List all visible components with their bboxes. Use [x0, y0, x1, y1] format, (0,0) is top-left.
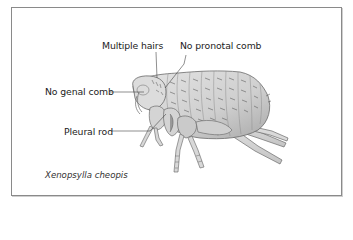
label-multiple-hairs: Multiple hairs: [102, 40, 163, 51]
label-no-pronotal-comb: No pronotal comb: [180, 40, 261, 51]
label-no-genal-comb: No genal comb: [45, 86, 114, 97]
label-pleural-rod: Pleural rod: [64, 126, 113, 137]
species-caption: Xenopsylla cheopis: [45, 170, 128, 180]
